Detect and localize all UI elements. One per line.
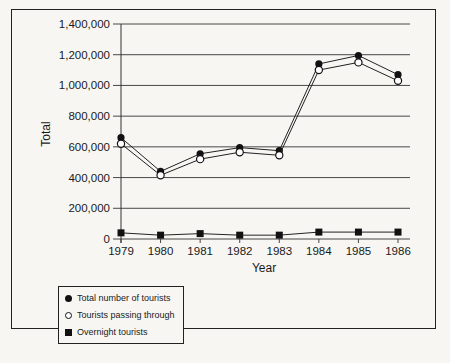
filled-square-icon: [65, 329, 72, 336]
legend-label: Total number of tourists: [77, 293, 171, 303]
x-tick-label: 1982: [227, 245, 253, 257]
data-point-open-circle: [157, 172, 164, 179]
x-tick-label: 1983: [266, 245, 292, 257]
y-tick-label: 1,200,000: [59, 49, 110, 61]
x-axis-label: Year: [252, 261, 276, 275]
data-point-open-circle: [117, 140, 124, 147]
y-tick-label: 1,400,000: [59, 18, 110, 30]
y-tick-label: 1,000,000: [59, 79, 110, 91]
y-tick-label: 200,000: [68, 202, 110, 214]
y-tick-label: 0: [104, 233, 110, 245]
x-tick-label: 1979: [108, 245, 134, 257]
legend-item-passing: Tourists passing through: [65, 310, 175, 320]
data-point-open-circle: [197, 156, 204, 163]
data-point-open-circle: [315, 66, 322, 73]
data-point-filled-square: [276, 232, 283, 239]
data-point-filled-square: [355, 229, 362, 236]
data-point-filled-square: [118, 229, 125, 236]
data-point-open-circle: [355, 59, 362, 66]
legend-item-total: Total number of tourists: [65, 293, 171, 303]
x-tick-label: 1985: [346, 245, 372, 257]
legend-label: Overnight tourists: [77, 327, 148, 337]
series-line: [121, 62, 398, 175]
legend-label: Tourists passing through: [77, 310, 175, 320]
y-tick-label: 600,000: [68, 141, 110, 153]
x-tick-label: 1986: [385, 245, 411, 257]
data-point-filled-circle: [355, 52, 362, 59]
legend-item-overnight: Overnight tourists: [65, 327, 148, 337]
data-point-open-circle: [236, 149, 243, 156]
x-tick-label: 1980: [148, 245, 174, 257]
data-point-open-circle: [394, 77, 401, 84]
data-point-filled-square: [395, 229, 402, 236]
legend: Total number of tourists Tourists passin…: [58, 286, 184, 344]
filled-circle-icon: [65, 295, 72, 302]
data-point-open-circle: [276, 152, 283, 159]
y-tick-label: 800,000: [68, 110, 110, 122]
y-tick-label: 400,000: [68, 172, 110, 184]
x-tick-label: 1984: [306, 245, 332, 257]
y-axis-label: Total: [39, 121, 53, 146]
data-point-filled-square: [236, 232, 243, 239]
x-tick-label: 1981: [187, 245, 213, 257]
data-point-filled-square: [157, 232, 164, 239]
data-point-filled-square: [315, 229, 322, 236]
open-circle-icon: [65, 312, 72, 319]
data-point-filled-square: [197, 230, 204, 237]
